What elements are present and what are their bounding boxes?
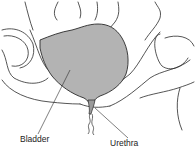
pelvis-diagram: [0, 0, 195, 155]
bladder-shape: [40, 24, 128, 108]
urethra-label: Urethra: [110, 138, 138, 148]
anatomy-figure: Bladder Urethra: [0, 0, 195, 155]
urethra-leader-line: [95, 108, 128, 138]
bladder-leader-line: [38, 70, 70, 134]
bladder-label: Bladder: [20, 134, 49, 144]
